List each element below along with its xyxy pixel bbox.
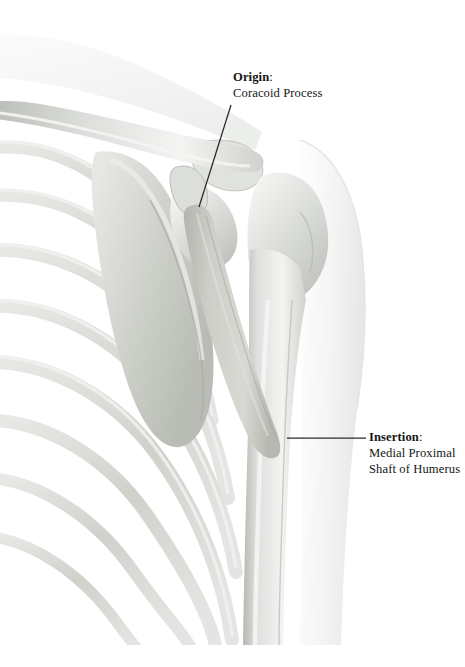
origin-detail: Coracoid Process <box>233 85 322 101</box>
insertion-detail-line-1: Medial Proximal <box>369 445 460 461</box>
insertion-label: Insertion: Medial Proximal Shaft of Hume… <box>369 429 460 477</box>
insertion-term: Insertion <box>369 430 419 444</box>
origin-label: Origin: Coracoid Process <box>233 69 322 101</box>
origin-term: Origin <box>233 70 269 84</box>
insertion-detail-line-2: Shaft of Humerus <box>369 461 460 477</box>
insertion-colon: : <box>419 430 423 444</box>
origin-colon: : <box>269 70 273 84</box>
